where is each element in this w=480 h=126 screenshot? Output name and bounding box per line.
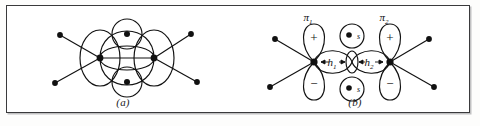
pi1-lower-sign: − [310,76,317,91]
substituent-dot-left-lower [267,84,273,90]
h2-inner-arrow-head [359,60,363,64]
h1-arrow-head [321,60,325,64]
h1-subscript: 1 [333,63,337,71]
figure-root: (a) [0,0,480,126]
s-orbital-bottom-label: s [357,85,360,94]
pi2-lower-sign: − [386,76,393,91]
bond-left-upper [275,39,314,62]
h2-subscript: 2 [370,63,374,71]
h1-label: h1 [328,56,337,71]
bond-left-lower [270,62,314,87]
diagram-a-bond-lines [55,34,197,83]
substituent-dot-left-lower [52,80,58,86]
substituent-dot-right-upper [188,31,194,37]
panel-b-caption: (b) [239,96,471,108]
panel-b: π1 π2 h1 h2 s s + [239,6,471,114]
pi1-upper-sign: + [310,30,317,45]
panel-a-caption: (a) [7,96,239,108]
h2-arrow-head [379,60,383,64]
pi2-subscript: 2 [385,18,389,26]
carbon-right-nucleus-dot [151,55,158,62]
figure-frame: (a) [6,5,470,113]
hydrogen-top-nucleus-dot [124,31,130,37]
bond-right-lower [390,62,434,87]
carbon-left-nucleus-dot [97,55,104,62]
bond-right-lower [154,58,197,82]
pi1-label: π1 [303,11,312,26]
substituent-dot-left-upper [57,32,63,38]
carbon-left-nucleus-dot [310,58,317,65]
substituent-dot-right-lower [194,79,200,85]
h2-label: h2 [365,56,375,71]
substituent-dot-right-lower [431,84,437,90]
panel-a: (a) [7,6,239,114]
hydrogen-bottom-nucleus-dot [346,85,352,91]
substituent-dot-left-upper [272,36,278,42]
pi1-subscript: 1 [309,18,313,26]
pi2-upper-sign: + [386,30,393,45]
carbon-right-nucleus-dot [386,58,393,65]
hydrogen-bottom-nucleus-dot [124,79,130,85]
bond-left-lower [55,58,100,83]
h1-inner-arrow-head [341,60,345,64]
bond-right-upper [390,39,429,62]
pi2-label: π2 [379,11,389,26]
s-orbital-top [340,24,364,48]
substituent-dot-right-upper [426,36,432,42]
s-orbital-top-label: s [357,32,360,41]
hydrogen-top-nucleus-dot [346,32,352,38]
